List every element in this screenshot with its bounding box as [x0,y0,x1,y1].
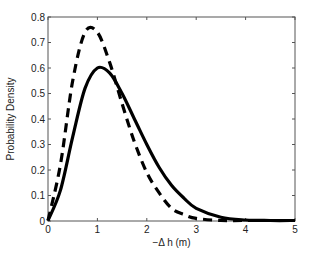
x-tick-label: 3 [193,224,199,235]
x-tick-label: 5 [292,224,298,235]
y-tick-label: 0.1 [31,190,45,201]
y-axis: 00.10.20.30.40.50.60.70.8 [31,12,295,227]
x-axis-label: −Δ h (m) [152,237,190,248]
y-tick-label: 0.8 [31,12,45,23]
plot-border [48,17,295,221]
x-tick-label: 4 [243,224,249,235]
y-tick-label: 0.6 [31,63,45,74]
series-solid-line [48,67,295,220]
x-axis: 012345 [45,17,298,235]
y-axis-label: Probability Density [5,78,16,161]
x-tick-label: 2 [144,224,150,235]
series-lines [48,27,295,220]
y-tick-label: 0.7 [31,37,45,48]
chart: 00.10.20.30.40.50.60.70.8 012345 −Δ h (m… [0,0,310,255]
series-dashed-line [48,27,295,220]
y-tick-label: 0.2 [31,165,45,176]
x-tick-label: 0 [45,224,51,235]
y-tick-label: 0.5 [31,88,45,99]
y-tick-label: 0.4 [31,114,45,125]
y-tick-label: 0.3 [31,139,45,150]
x-tick-label: 1 [95,224,101,235]
plot-area [48,17,295,221]
